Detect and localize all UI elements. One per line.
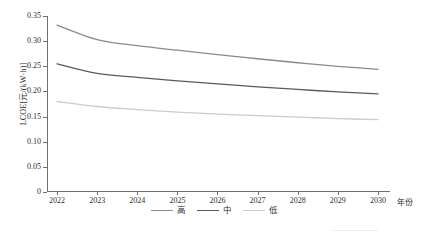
y-tick-label: 0.35: [27, 12, 41, 20]
x-tick-label: 2022: [49, 197, 65, 205]
caption-fragment: ·················: [332, 226, 428, 231]
y-tick-mark: [43, 16, 47, 17]
x-tick-label: 2028: [290, 197, 306, 205]
series-lines: [47, 16, 390, 192]
legend-label: 高: [177, 206, 186, 215]
x-tick-label: 2026: [209, 197, 225, 205]
series-line-低: [57, 101, 378, 119]
y-tick-mark: [43, 117, 47, 118]
legend-item-高[interactable]: 高: [151, 206, 186, 215]
y-axis-line: [47, 16, 48, 192]
chart-figure: LCOE[元/(kW·h)] 00.050.100.150.200.250.30…: [0, 0, 429, 235]
legend-item-中[interactable]: 中: [197, 206, 232, 215]
x-tick-label: 2024: [129, 197, 145, 205]
x-tick-label: 2025: [169, 197, 185, 205]
x-tick-mark: [57, 191, 58, 195]
x-tick-label: 2030: [370, 197, 386, 205]
x-tick-mark: [338, 191, 339, 195]
x-tick-mark: [137, 191, 138, 195]
legend-swatch-icon: [197, 210, 219, 211]
y-tick-label: 0.10: [27, 138, 41, 146]
x-tick-mark: [177, 191, 178, 195]
x-tick-label: 2023: [89, 197, 105, 205]
x-tick-mark: [298, 191, 299, 195]
y-tick-label: 0.20: [27, 87, 41, 95]
legend-swatch-icon: [151, 210, 173, 211]
y-tick-label: 0.25: [27, 62, 41, 70]
legend-swatch-icon: [243, 210, 265, 211]
y-tick-mark: [43, 66, 47, 67]
y-tick-label: 0: [37, 188, 41, 196]
legend-label: 低: [269, 206, 278, 215]
x-tick-mark: [217, 191, 218, 195]
x-tick-mark: [258, 191, 259, 195]
y-tick-label: 0.05: [27, 163, 41, 171]
x-tick-mark: [97, 191, 98, 195]
legend-label: 中: [223, 206, 232, 215]
series-line-中: [57, 64, 378, 94]
chart-legend: 高中低: [0, 206, 429, 215]
x-tick-label: 2029: [330, 197, 346, 205]
x-tick-label: 2027: [250, 197, 266, 205]
y-tick-label: 0.15: [27, 113, 41, 121]
legend-item-低[interactable]: 低: [243, 206, 278, 215]
y-tick-mark: [43, 91, 47, 92]
plot-area: 00.050.100.150.200.250.300.35 2022202320…: [47, 16, 390, 192]
y-tick-mark: [43, 192, 47, 193]
y-tick-mark: [43, 142, 47, 143]
series-line-高: [57, 25, 378, 69]
y-tick-mark: [43, 41, 47, 42]
x-tick-mark: [378, 191, 379, 195]
y-tick-mark: [43, 167, 47, 168]
y-tick-label: 0.30: [27, 37, 41, 45]
